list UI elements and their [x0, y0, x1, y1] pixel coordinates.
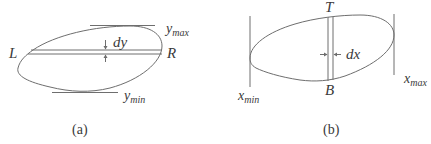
- caption-a: (a): [72, 122, 88, 138]
- ymax-label: ymax: [164, 21, 189, 38]
- panel-b: dx T B xmin xmax (b): [237, 0, 427, 138]
- xmin-label: xmin: [237, 88, 259, 105]
- ymin-label: ymin: [122, 88, 145, 105]
- xmax-label: xmax: [403, 71, 427, 88]
- left-point-label: L: [8, 45, 17, 61]
- region-outline-b: [250, 15, 394, 81]
- dy-arrows-icon: [104, 40, 108, 62]
- integration-strip-diagram: dy L R ymax ymin (a) dx T B xmin xmax (b…: [0, 0, 431, 144]
- dy-label: dy: [113, 34, 128, 50]
- dx-arrows-icon: [320, 53, 341, 57]
- panel-a: dy L R ymax ymin (a): [8, 21, 189, 138]
- top-point-label: T: [325, 0, 335, 15]
- region-outline-a: [18, 26, 162, 91]
- caption-b: (b): [323, 122, 340, 138]
- dx-label: dx: [346, 46, 361, 62]
- right-point-label: R: [166, 45, 176, 61]
- bottom-point-label: B: [325, 82, 334, 98]
